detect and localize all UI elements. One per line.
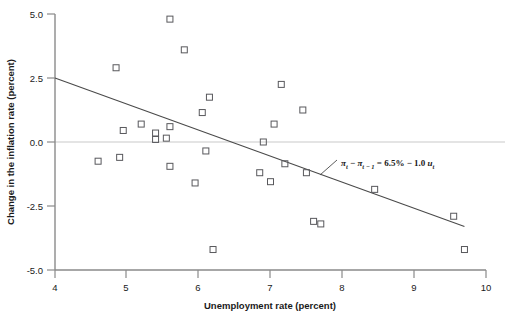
data-point-marker [192,180,198,186]
data-point-marker [95,158,101,164]
x-tick-label-10: 10 [481,282,492,293]
data-point-marker [372,186,378,192]
data-point-marker [199,110,205,116]
y-axis-ticks [47,14,55,270]
constant-term: 6.5% [384,158,404,168]
data-point-marker [461,247,467,253]
data-point-marker [167,163,173,169]
data-point-marker [268,179,274,185]
data-point-marker [311,218,317,224]
phillips-curve-scatter-figure: 5.0 2.5 0.0 -2.5 -5.0 4 5 6 7 8 9 10 Une… [0,0,505,326]
x-tick-label-7: 7 [267,282,272,293]
data-point-marker [318,221,324,227]
data-point-marker [278,81,284,87]
data-point-marker [153,130,159,136]
data-point-marker [257,170,263,176]
y-tick-label-0: 0.0 [30,137,43,148]
data-point-marker [167,124,173,130]
scatter-markers-group [95,16,467,252]
x-tick-label-8: 8 [339,282,344,293]
y-tick-label-neg5: -5.0 [27,265,43,276]
data-point-marker [203,148,209,154]
y-tick-label-2.5: 2.5 [30,73,43,84]
y-tick-label-neg2.5: -2.5 [27,201,43,212]
x-tick-label-5: 5 [123,282,128,293]
data-point-marker [138,121,144,127]
data-point-marker [300,107,306,113]
x-tick-label-6: 6 [195,282,200,293]
annotation-leader-line [320,160,337,175]
u-subscript-t: t [433,163,435,170]
data-point-marker [167,16,173,22]
data-point-marker [117,154,123,160]
x-axis-ticks [55,270,486,278]
data-point-marker [163,135,169,141]
data-point-marker [181,47,187,53]
data-point-marker [113,65,119,71]
data-point-marker [120,127,126,133]
data-point-marker [451,213,457,219]
x-axis-title: Unemployment rate (percent) [204,300,336,311]
slope-coefficient: 1.0 [414,158,426,168]
data-point-marker [210,247,216,253]
y-tick-label-5: 5.0 [30,9,43,20]
regression-fit-line [55,78,464,226]
y-axis-title: Change in the inflation rate (percent) [5,59,16,225]
data-point-marker [303,170,309,176]
x-tick-label-9: 9 [411,282,416,293]
chart-canvas: 5.0 2.5 0.0 -2.5 -5.0 4 5 6 7 8 9 10 Une… [0,0,505,326]
data-point-marker [206,94,212,100]
pi-subscript-t-minus-1: t − 1 [362,163,374,170]
x-tick-label-4: 4 [52,282,57,293]
data-point-marker [271,121,277,127]
regression-equation-annotation: πt − πt − 1 = 6.5% − 1.0 ut [341,158,435,170]
